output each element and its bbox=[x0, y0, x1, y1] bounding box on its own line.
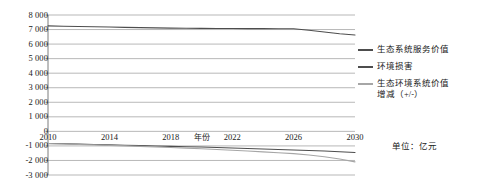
legend-label: 环境损害 bbox=[377, 61, 413, 72]
x-tick-label: 2030 bbox=[347, 133, 364, 142]
line-chart: 8 0007 0006 0005 0004 0003 0002 0001 000… bbox=[0, 0, 478, 189]
x-axis-tick-labels: 201020142018202220262030年份 bbox=[0, 0, 360, 189]
x-tick-label: 2026 bbox=[285, 133, 302, 142]
x-tick-label: 2018 bbox=[162, 133, 179, 142]
legend-swatch-1 bbox=[358, 49, 373, 51]
plot-area: 8 0007 0006 0005 0004 0003 0002 0001 000… bbox=[0, 0, 360, 189]
legend-item: 生态环境系统价值 增减（+/-） bbox=[358, 78, 478, 100]
x-tick-label: 2014 bbox=[101, 133, 118, 142]
legend-swatch-3 bbox=[358, 83, 373, 85]
legend-label: 生态系统服务价值 bbox=[377, 44, 449, 55]
legend-swatch-2 bbox=[358, 66, 373, 68]
x-axis-title: 年份 bbox=[194, 134, 210, 142]
unit-note: 单位：亿元 bbox=[392, 142, 437, 151]
x-tick-label: 2010 bbox=[40, 133, 57, 142]
legend-label: 生态环境系统价值 增减（+/-） bbox=[377, 78, 449, 100]
legend-item: 环境损害 bbox=[358, 61, 478, 72]
x-tick-label: 2022 bbox=[224, 133, 241, 142]
legend-item: 生态系统服务价值 bbox=[358, 44, 478, 55]
legend: 生态系统服务价值环境损害生态环境系统价值 增减（+/-） bbox=[358, 44, 478, 106]
